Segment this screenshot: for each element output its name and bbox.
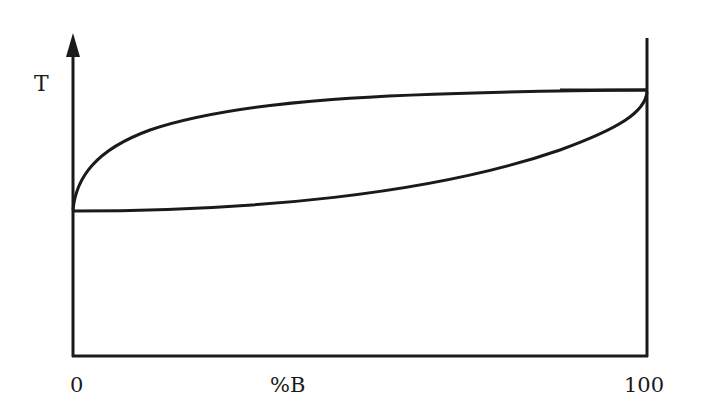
phase-diagram bbox=[0, 0, 709, 420]
x-axis-label: %B bbox=[270, 375, 305, 396]
y-axis-arrow-icon bbox=[66, 33, 80, 57]
x-axis-min-tick: 0 bbox=[70, 375, 83, 396]
x-axis-max-tick: 100 bbox=[624, 375, 664, 396]
solidus-curve bbox=[73, 92, 647, 211]
y-axis-label: T bbox=[34, 73, 49, 95]
